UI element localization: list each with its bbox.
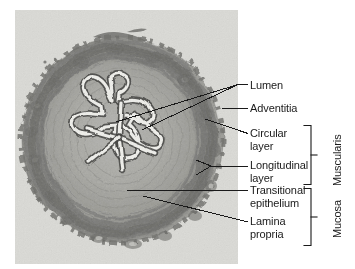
- label-transitional-epithelium: Transitional epithelium: [250, 184, 305, 209]
- bracket-label-muscularis: Muscularis: [331, 134, 343, 186]
- label-adventitia: Adventitia: [250, 102, 297, 115]
- label-circular-layer: Circular layer: [250, 127, 287, 152]
- label-lamina-propria: Lamina propria: [250, 215, 285, 240]
- label-longitudinal-layer: Longitudinal layer: [250, 159, 308, 184]
- micrograph-image: [15, 10, 238, 264]
- label-lumen: Lumen: [250, 79, 283, 92]
- figure-histology-ureter: Lumen Adventitia Circular layer Longitud…: [0, 0, 355, 269]
- bracket-label-mucosa: Mucosa: [331, 200, 343, 238]
